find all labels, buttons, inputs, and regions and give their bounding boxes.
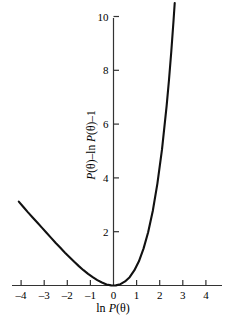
plot-canvas (0, 0, 234, 323)
y-axis-title-minus-1: – (85, 154, 97, 160)
axes-group (12, 17, 222, 286)
x-tick-label: –1 (85, 290, 96, 301)
y-axis-title: P(θ)–ln P(θ)–1 (86, 110, 98, 179)
x-tick-label: 0 (111, 290, 117, 301)
y-tick-label: 2 (89, 226, 109, 237)
x-tick-label: 3 (180, 290, 186, 301)
chart-figure: –4–3–2–101234 246810 ln P(θ) P(θ)–ln P(θ… (0, 0, 234, 323)
y-axis-title-argument-2: (θ) (85, 122, 97, 135)
x-tick-label: 4 (203, 290, 209, 301)
y-axis-title-one: 1 (85, 110, 97, 116)
y-tick-marks (114, 17, 120, 232)
x-tick-label: –3 (39, 290, 50, 301)
y-axis-title-argument-1: (θ) (85, 160, 97, 173)
y-axis-title-operator: ln (85, 145, 97, 154)
x-axis-title-variable: P (109, 301, 116, 315)
y-axis-title-variable-2: P (85, 135, 97, 142)
x-axis-title: ln P(θ) (96, 302, 129, 314)
y-tick-label: 8 (89, 65, 109, 76)
x-tick-label: –2 (62, 290, 73, 301)
y-tick-label: 10 (89, 11, 109, 22)
y-axis-title-minus-2: – (85, 116, 97, 122)
y-axis-title-variable-1: P (85, 173, 97, 180)
x-tick-label: 1 (134, 290, 140, 301)
x-axis-title-operator: ln (96, 301, 105, 315)
x-tick-label: 2 (157, 290, 163, 301)
x-axis-title-argument: (θ) (116, 301, 130, 315)
x-tick-label: –4 (16, 290, 27, 301)
